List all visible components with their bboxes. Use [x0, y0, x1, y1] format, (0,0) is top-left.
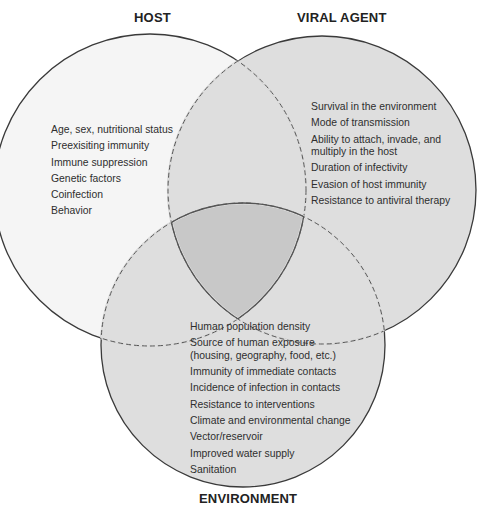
viral-factor: Mode of transmission [311, 117, 461, 130]
viral-factor: Duration of infectivity [311, 162, 461, 175]
environment-factors-list: Human population density Source of human… [190, 321, 360, 480]
environment-factor: Source of human exposure (housing, geogr… [190, 337, 360, 362]
host-factor: Preexisiting immunity [51, 140, 211, 153]
environment-factor: Incidence of infection in contacts [190, 382, 360, 395]
environment-factor: Human population density [190, 321, 360, 334]
environment-factor: Improved water supply [190, 448, 360, 461]
host-factor: Genetic factors [51, 173, 211, 186]
environment-factor: Resistance to interventions [190, 399, 360, 412]
environment-factor: Vector/reservoir [190, 431, 360, 444]
host-factor: Immune suppression [51, 157, 211, 170]
host-factor: Behavior [51, 205, 211, 218]
viral-agent-title: VIRAL AGENT [297, 10, 387, 25]
viral-factor: Ability to attach, invade, and multiply … [311, 134, 461, 159]
viral-factor: Evasion of host immunity [311, 179, 461, 192]
environment-title: ENVIRONMENT [199, 491, 297, 506]
viral-factors-list: Survival in the environment Mode of tran… [311, 101, 461, 211]
environment-factor: Immunity of immediate contacts [190, 366, 360, 379]
host-factor: Age, sex, nutritional status [51, 124, 211, 137]
host-title: HOST [134, 10, 171, 25]
environment-factor: Climate and environmental change [190, 415, 360, 428]
host-factor: Coinfection [51, 189, 211, 202]
viral-factor: Survival in the environment [311, 101, 461, 114]
host-factors-list: Age, sex, nutritional status Preexisitin… [51, 124, 211, 222]
environment-factor: Sanitation [190, 464, 360, 477]
viral-factor: Resistance to antiviral therapy [311, 195, 461, 208]
